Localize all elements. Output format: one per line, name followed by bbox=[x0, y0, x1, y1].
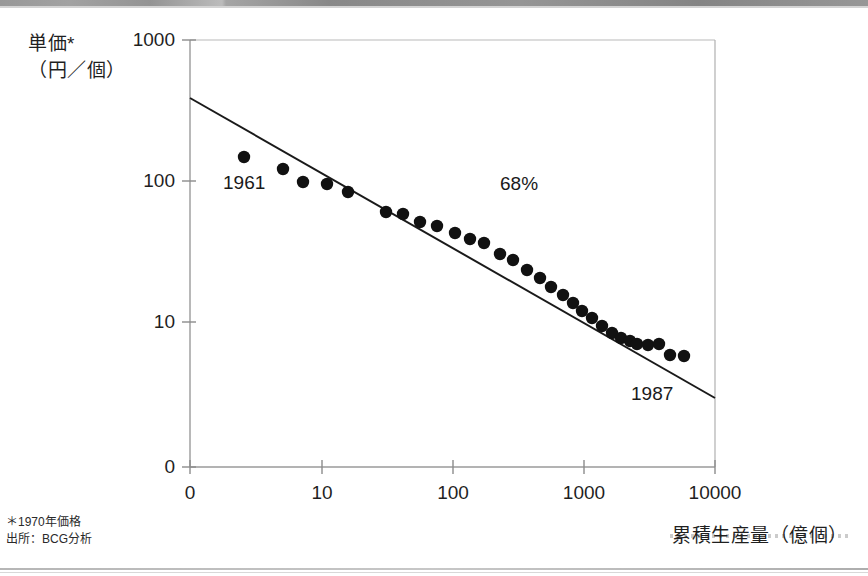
scatter-point bbox=[397, 208, 409, 220]
scatter-point bbox=[642, 339, 654, 351]
scatter-point bbox=[678, 350, 690, 362]
scatter-point bbox=[464, 233, 476, 245]
scatter-point bbox=[586, 312, 598, 324]
scatter-point bbox=[576, 305, 588, 317]
scatter-point bbox=[414, 216, 426, 228]
scatter-point bbox=[631, 338, 643, 350]
scatter-point bbox=[507, 254, 519, 266]
scatter-point bbox=[380, 206, 392, 218]
y-axis-ticks bbox=[182, 40, 196, 467]
trend-line-68-percent bbox=[190, 98, 715, 398]
scatter-point bbox=[596, 320, 608, 332]
scatter-point bbox=[449, 227, 461, 239]
chart-page: 単価* （円／個） 累積生産量（億個） ＊1970年価格 出所：BCG分析 10… bbox=[0, 0, 868, 576]
scatter-point bbox=[321, 178, 333, 190]
scatter-point bbox=[664, 349, 676, 361]
plot-canvas bbox=[0, 0, 868, 576]
scatter-point bbox=[431, 220, 443, 232]
scatter-point bbox=[653, 338, 665, 350]
scatter-points bbox=[238, 151, 690, 362]
plot-frame bbox=[190, 40, 715, 467]
scatter-point bbox=[238, 151, 250, 163]
scatter-point bbox=[478, 237, 490, 249]
scatter-point bbox=[277, 163, 289, 175]
scatter-point bbox=[494, 248, 506, 260]
scatter-point bbox=[557, 289, 569, 301]
scatter-point bbox=[521, 264, 533, 276]
scatter-point bbox=[545, 281, 557, 293]
scatter-point bbox=[534, 272, 546, 284]
scatter-point bbox=[297, 176, 309, 188]
scatter-point bbox=[342, 186, 354, 198]
